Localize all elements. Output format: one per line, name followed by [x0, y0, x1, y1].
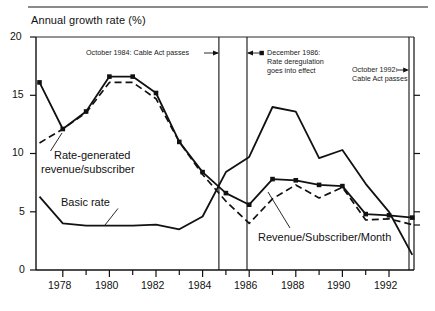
x-tick-1992: 1992: [374, 279, 397, 291]
x-tick-1978: 1978: [48, 279, 71, 291]
x-axis-ticks: [63, 270, 389, 277]
series-label-revenue-subscriber-month: Revenue/Subscriber/Month: [258, 231, 391, 244]
annotation-dec-1986-line3: goes into effect: [267, 67, 316, 75]
x-tick-1984: 1984: [188, 279, 211, 291]
y-tick-15: 15: [12, 88, 24, 100]
x-tick-1990: 1990: [327, 279, 350, 291]
series-label-rate-generated-line2: revenue/subscriber: [41, 163, 135, 176]
series-label-basic-rate: Basic rate: [61, 196, 110, 209]
y-tick-20: 20: [10, 30, 22, 42]
x-tick-1980: 1980: [95, 279, 118, 291]
leader-revenue-subscriber-month: [268, 192, 290, 228]
y-tick-10: 10: [12, 146, 24, 158]
x-tick-1986: 1986: [234, 279, 257, 291]
figure-container: Annual growth rate (%): [0, 0, 435, 311]
x-tick-1988: 1988: [281, 279, 304, 291]
y-tick-5: 5: [19, 205, 25, 217]
y-tick-0: 0: [19, 263, 25, 275]
annotation-oct-1984: October 1984: Cable Act passes: [86, 49, 189, 57]
series-label-rate-generated-line1: Rate-generated: [54, 149, 130, 162]
annotation-oct-1992-line2: Cable Act passes: [352, 75, 408, 83]
x-tick-1982: 1982: [141, 279, 164, 291]
leader-basic-rate: [105, 209, 118, 226]
